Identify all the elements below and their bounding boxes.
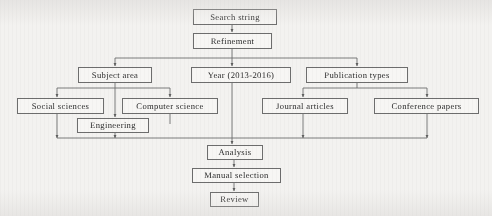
node-engineering: Engineering: [77, 118, 149, 133]
node-manual-selection: Manual selection: [192, 168, 281, 183]
node-engineering-label: Engineering: [90, 121, 136, 130]
node-search-string-label: Search string: [210, 13, 260, 22]
node-subject-area: Subject area: [78, 67, 152, 83]
node-subject-area-label: Subject area: [92, 71, 138, 80]
node-social-sciences-label: Social sciences: [32, 102, 90, 111]
node-conference-papers-label: Conference papers: [391, 102, 461, 111]
node-refinement-label: Refinement: [211, 37, 255, 46]
node-year-range-label: Year (2013-2016): [208, 71, 275, 80]
node-analysis: Analysis: [207, 145, 263, 160]
node-journal-articles-label: Journal articles: [276, 102, 334, 111]
node-year-range: Year (2013-2016): [191, 67, 291, 83]
node-publication-types-label: Publication types: [324, 71, 389, 80]
node-review-label: Review: [220, 195, 248, 204]
node-journal-articles: Journal articles: [262, 98, 348, 114]
node-review: Review: [210, 192, 259, 207]
node-computer-science: Computer science: [122, 98, 218, 114]
node-analysis-label: Analysis: [219, 148, 252, 157]
node-manual-selection-label: Manual selection: [204, 171, 269, 180]
node-refinement: Refinement: [193, 33, 272, 49]
node-publication-types: Publication types: [306, 67, 408, 83]
node-social-sciences: Social sciences: [17, 98, 104, 114]
node-computer-science-label: Computer science: [136, 102, 203, 111]
node-search-string: Search string: [193, 9, 277, 25]
node-conference-papers: Conference papers: [374, 98, 479, 114]
flowchart-diagram: Search string Refinement Subject area Ye…: [0, 0, 492, 216]
